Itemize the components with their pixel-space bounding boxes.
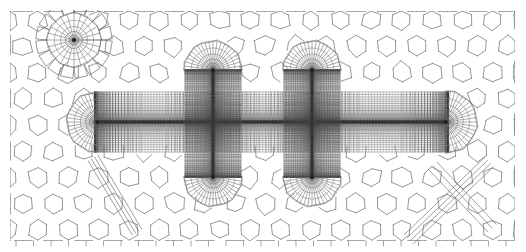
mesh-canvas: [0, 0, 526, 252]
mesh-figure: [0, 0, 526, 252]
